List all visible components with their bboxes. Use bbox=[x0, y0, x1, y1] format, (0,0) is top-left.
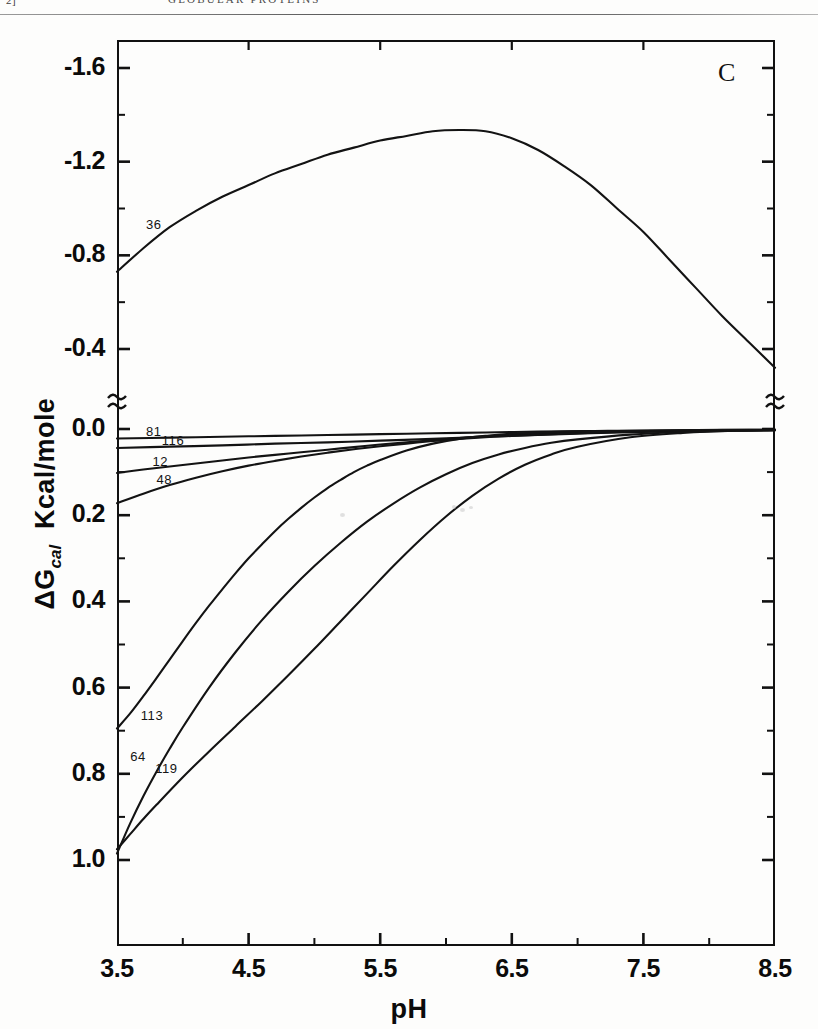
x-tick-label: 8.5 bbox=[735, 954, 815, 983]
curve-label-119: 119 bbox=[155, 761, 178, 776]
scan-speckle bbox=[452, 505, 456, 509]
figure-panel-c: -1.6-1.2-0.8-0.40.00.20.40.60.81.03.54.5… bbox=[0, 16, 818, 1029]
y-axis-title-subscript: cal bbox=[46, 545, 65, 569]
curve-label-12: 12 bbox=[153, 454, 169, 469]
y-tick-label: -1.6 bbox=[15, 52, 105, 81]
x-axis-title: pH bbox=[0, 994, 818, 1025]
plot-canvas bbox=[0, 16, 818, 1029]
curve-label-81: 81 bbox=[146, 424, 162, 439]
axis-ticks bbox=[117, 40, 775, 946]
scan-speckle bbox=[469, 506, 473, 509]
curve-label-36: 36 bbox=[146, 217, 162, 232]
y-axis-title-unit: Kcal/mole bbox=[30, 398, 60, 545]
scan-speckle bbox=[460, 508, 465, 512]
y-tick-label: 1.0 bbox=[15, 844, 105, 873]
scanned-page: 2] GLOBULAR PROTEINS -1.6-1.2-0.8-0.40.0… bbox=[0, 0, 818, 1029]
page-folio: 2] bbox=[6, 0, 16, 6]
y-axis-title-symbol: ΔG bbox=[30, 568, 60, 609]
x-tick-label: 5.5 bbox=[340, 954, 420, 983]
axis-break-marks bbox=[108, 395, 784, 409]
panel-letter: C bbox=[718, 58, 735, 88]
curve-label-113: 113 bbox=[141, 708, 164, 723]
running-head: GLOBULAR PROTEINS bbox=[168, 0, 321, 5]
y-axis-title: ΔGcal Kcal/mole bbox=[30, 224, 65, 784]
x-tick-label: 3.5 bbox=[77, 954, 157, 983]
data-curve-119 bbox=[117, 430, 775, 849]
axis-break-left bbox=[108, 395, 126, 409]
axis-break-right bbox=[766, 395, 784, 409]
header-rule bbox=[0, 14, 818, 15]
data-curve-64 bbox=[117, 430, 775, 853]
x-tick-label: 7.5 bbox=[603, 954, 683, 983]
curve-label-64: 64 bbox=[130, 749, 146, 764]
data-curves bbox=[117, 130, 775, 853]
x-tick-label: 6.5 bbox=[472, 954, 552, 983]
x-tick-label: 4.5 bbox=[209, 954, 289, 983]
data-curve-36 bbox=[117, 130, 775, 368]
curve-label-48: 48 bbox=[156, 472, 172, 487]
curve-label-116: 116 bbox=[162, 433, 185, 448]
scan-speckle bbox=[340, 513, 345, 517]
y-tick-label: -1.2 bbox=[15, 146, 105, 175]
